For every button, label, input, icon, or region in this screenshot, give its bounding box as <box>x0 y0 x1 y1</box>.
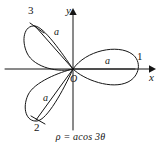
origin-label: O <box>70 74 77 84</box>
x-axis-label: x <box>149 72 154 83</box>
radius-label-right: a <box>105 56 110 66</box>
tip-chord-upper-left <box>30 23 44 33</box>
figure-caption: ρ = acos 3θ <box>0 131 161 142</box>
radius-label-upper-left: a <box>54 27 59 37</box>
y-axis-label: y <box>66 5 71 16</box>
rose-curve-graphic <box>0 0 161 149</box>
polar-rose-figure: y x O 3 2 1 a a a ρ = acos 3θ <box>0 0 161 149</box>
petal-upper-left <box>24 26 73 70</box>
petal-tip-label-1: 1 <box>137 51 143 62</box>
radius-label-lower-left: a <box>43 93 48 103</box>
petal-lower-left <box>25 69 73 121</box>
radius-line-lower-left <box>36 69 73 120</box>
petal-tip-label-3: 3 <box>28 5 34 16</box>
